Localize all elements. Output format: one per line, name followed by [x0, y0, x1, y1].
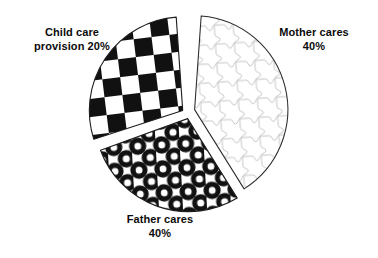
slice-label-mother-cares-line1: Mother cares — [258, 26, 370, 40]
slice-label-child-care-provision-line2: provision 20% — [10, 40, 134, 54]
slice-label-father-cares-line1: Father cares — [88, 213, 232, 227]
slice-label-mother-cares-line2: 40% — [258, 40, 370, 54]
slice-label-father-cares-line2: 40% — [88, 227, 232, 241]
pie-chart: Child care provision 20% Mother cares 40… — [0, 0, 378, 258]
slice-label-mother-cares: Mother cares 40% — [258, 26, 370, 53]
slice-label-child-care-provision-line1: Child care — [10, 26, 134, 40]
slice-label-child-care-provision: Child care provision 20% — [10, 26, 134, 53]
slice-label-father-cares: Father cares 40% — [88, 213, 232, 240]
